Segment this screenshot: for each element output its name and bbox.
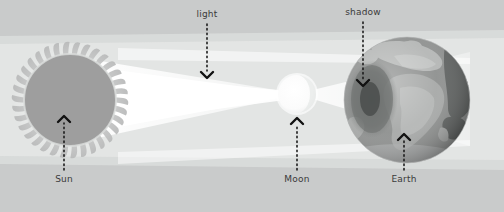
label-shadow: shadow <box>345 7 381 17</box>
label-moon: Moon <box>284 174 309 184</box>
moon-body <box>276 73 318 115</box>
label-light: light <box>197 9 218 19</box>
label-earth: Earth <box>391 174 416 184</box>
eclipse-shadow <box>346 60 398 138</box>
sun-body <box>12 42 129 159</box>
label-sun: Sun <box>55 174 73 184</box>
diagram-canvas <box>0 0 504 212</box>
eclipse-diagram: light shadow Sun Moon Earth <box>0 0 504 212</box>
